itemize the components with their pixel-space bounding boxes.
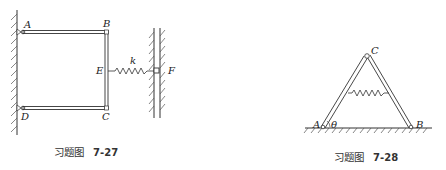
figure-7-27: A B D C E F k 习题图 7-27	[11, 10, 176, 160]
label-a-28: A	[312, 119, 320, 130]
caption-number: 7-27	[93, 147, 118, 158]
label-c: C	[102, 111, 110, 122]
support-a	[321, 125, 325, 129]
caption-prefix: 习题图	[334, 151, 364, 163]
label-f: F	[167, 65, 176, 76]
label-d: D	[20, 111, 29, 122]
caption-7-28: 习题图 7-28	[334, 146, 398, 165]
diagram-canvas: A B D C E F k 习题图 7-27	[0, 0, 446, 170]
caption-number: 7-28	[373, 152, 398, 163]
spring	[348, 90, 389, 96]
bar-bc	[105, 31, 108, 110]
slider-f	[154, 68, 159, 73]
label-c-28: C	[371, 45, 379, 56]
joint-c	[105, 106, 109, 110]
support-b	[409, 125, 413, 129]
joint-b	[105, 30, 109, 34]
spring-k	[108, 68, 154, 74]
label-b-28: B	[415, 119, 423, 130]
figure-7-28: A θ B C 习题图 7-28	[304, 45, 432, 165]
label-k: k	[130, 55, 136, 66]
left-wall	[11, 10, 17, 135]
label-b: B	[102, 18, 110, 29]
hinge-c	[365, 54, 370, 59]
label-a: A	[23, 19, 31, 30]
label-theta: θ	[331, 119, 337, 130]
label-e: E	[95, 65, 104, 76]
caption-7-27: 习题图 7-27	[54, 141, 118, 160]
caption-prefix: 习题图	[54, 146, 84, 158]
bar-dc	[23, 107, 108, 110]
bar-ab	[23, 31, 108, 34]
